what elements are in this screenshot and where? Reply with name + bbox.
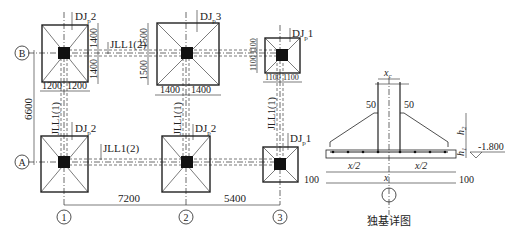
footing-b3[interactable] xyxy=(265,38,300,73)
svg-text:1400: 1400 xyxy=(160,84,180,95)
svg-text:xc: xc xyxy=(383,67,392,80)
svg-text:1500: 1500 xyxy=(138,28,149,48)
svg-text:3: 3 xyxy=(278,212,283,223)
svg-text:x/2: x/2 xyxy=(414,160,427,171)
axis-bubble-3: 3 xyxy=(273,210,287,224)
svg-text:100: 100 xyxy=(304,174,319,185)
svg-text:DJp2: DJp2 xyxy=(195,122,216,137)
axis-bubble-a: A xyxy=(15,155,29,169)
footing-b1[interactable] xyxy=(42,25,88,82)
axis-bubble-2: 2 xyxy=(179,210,193,224)
svg-text:1400: 1400 xyxy=(88,28,99,48)
svg-text:6600: 6600 xyxy=(22,98,34,121)
svg-text:50: 50 xyxy=(404,99,414,110)
svg-text:DJp1: DJp1 xyxy=(290,132,311,147)
foundation-drawing: DJp2 DJp3 DJp1 DJp2 DJp2 DJp1 JLL1(2) JL… xyxy=(0,0,509,239)
svg-text:JLL1(2): JLL1(2) xyxy=(103,142,139,155)
svg-text:1500: 1500 xyxy=(138,60,149,80)
svg-text:2: 2 xyxy=(184,212,189,223)
svg-text:JLL1(1): JLL1(1) xyxy=(50,102,62,135)
svg-text:1400: 1400 xyxy=(191,84,211,95)
footing-b2[interactable] xyxy=(157,23,219,85)
svg-text:x: x xyxy=(383,172,389,183)
axis-bubble-1: 1 xyxy=(57,210,71,224)
svg-text:1100: 1100 xyxy=(249,38,258,54)
svg-text:1: 1 xyxy=(62,212,67,223)
footing-dimensions: 1200 1200 1400 1400 1500 1500 1400 1400 … xyxy=(40,23,302,95)
svg-text:-1.800: -1.800 xyxy=(478,141,504,152)
svg-text:DJp1: DJp1 xyxy=(292,27,313,42)
svg-text:5400: 5400 xyxy=(224,192,247,204)
footing-a1[interactable] xyxy=(41,136,88,192)
svg-text:JLL1(1): JLL1(1) xyxy=(266,97,278,130)
svg-text:1100: 1100 xyxy=(283,73,299,82)
footing-detail: xc 50 50 h2 h1 -1.800 x/2 x/2 x 100 100 xyxy=(304,67,505,227)
svg-text:1400: 1400 xyxy=(88,59,99,79)
svg-text:x/2: x/2 xyxy=(347,160,360,171)
svg-text:100: 100 xyxy=(459,174,474,185)
svg-text:1200: 1200 xyxy=(67,80,87,91)
svg-text:A: A xyxy=(18,157,26,168)
svg-text:1200: 1200 xyxy=(42,80,62,91)
svg-text:1100: 1100 xyxy=(265,73,281,82)
footing-a3[interactable] xyxy=(263,147,298,182)
svg-text:7200: 7200 xyxy=(118,192,141,204)
svg-text:B: B xyxy=(19,48,26,59)
svg-text:1100: 1100 xyxy=(249,55,258,71)
detail-title: 独基详图 xyxy=(367,214,411,227)
svg-text:DJp2: DJp2 xyxy=(75,122,96,137)
svg-text:DJp2: DJp2 xyxy=(75,10,96,25)
axis-bubble-b: B xyxy=(15,46,29,60)
svg-text:JLL1(1): JLL1(1) xyxy=(172,102,184,135)
svg-text:50: 50 xyxy=(366,99,376,110)
